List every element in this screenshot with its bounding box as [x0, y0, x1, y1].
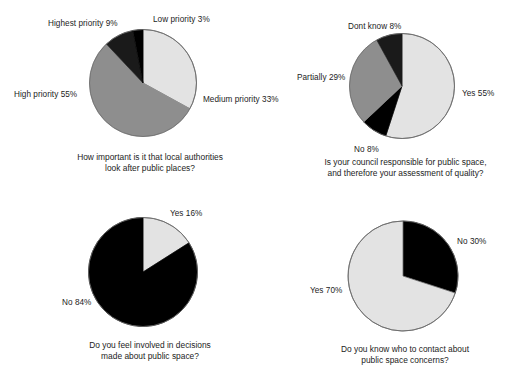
slice-label-highest-priority: Highest priority 9%: [48, 19, 118, 29]
slice-label-no: No 8%: [354, 145, 379, 155]
chart-council-responsible-for-public-space: Dont know 8% Partially 29% No 8% Yes 55%…: [255, 0, 505, 195]
slice-label-yes: Yes 16%: [170, 209, 202, 219]
pie-chart-figure: Highest priority 9% Low priority 3% High…: [0, 0, 505, 388]
caption-importance-of-local-authorities: How important is it that local authoriti…: [55, 152, 245, 174]
slice-label-low-priority: Low priority 3%: [153, 15, 210, 25]
caption-council-responsible-for-public-space: Is your council responsible for public s…: [303, 157, 505, 179]
slice-label-partially: Partially 29%: [297, 73, 345, 83]
slice-label-high-priority: High priority 55%: [14, 90, 77, 100]
chart-involved-in-decisions: Yes 16% No 84% Do you feel involved in d…: [0, 200, 250, 388]
slice-label-no: No 30%: [457, 237, 486, 247]
slice-label-dont-know: Dont know 8%: [348, 22, 401, 32]
slice-label-yes: Yes 70%: [310, 286, 342, 296]
caption-involved-in-decisions: Do you feel involved in decisions made a…: [55, 340, 245, 362]
chart-importance-of-local-authorities: Highest priority 9% Low priority 3% High…: [0, 0, 250, 190]
slice-label-yes: Yes 55%: [462, 89, 494, 99]
slice-label-no: No 84%: [62, 298, 91, 308]
chart-know-who-to-contact: No 30% Yes 70% Do you know who to contac…: [255, 200, 505, 388]
caption-know-who-to-contact: Do you know who to contact about public …: [305, 344, 505, 366]
